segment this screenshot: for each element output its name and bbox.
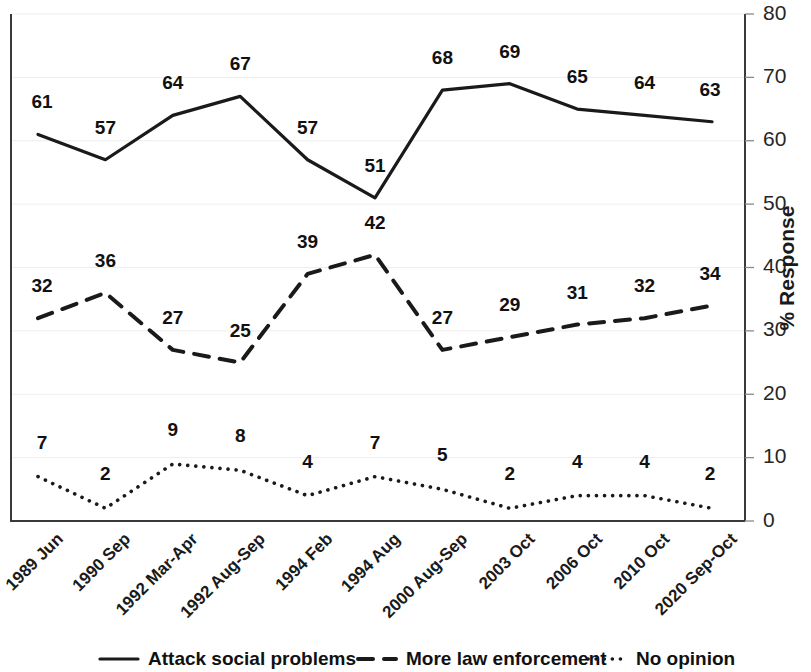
data-label: 4 <box>639 451 650 472</box>
chart-legend: Attack social problemsMore law enforceme… <box>100 648 735 669</box>
data-label: 4 <box>302 451 313 472</box>
data-label: 57 <box>95 117 116 138</box>
y-axis-title: % Response <box>775 206 798 331</box>
data-label: 51 <box>364 155 386 176</box>
data-label: 32 <box>31 275 52 296</box>
data-label: 8 <box>235 425 246 446</box>
chart-container: 01020304050607080 % Response 1989 Jun199… <box>0 0 811 672</box>
data-label: 67 <box>230 53 251 74</box>
data-label: 27 <box>162 307 183 328</box>
data-label: 61 <box>31 91 53 112</box>
data-label: 5 <box>437 444 448 465</box>
data-label: 65 <box>567 66 589 87</box>
data-label: 64 <box>162 72 184 93</box>
data-label: 36 <box>95 250 116 271</box>
data-label: 32 <box>634 275 655 296</box>
data-label: 57 <box>297 117 318 138</box>
y-tick-label: 10 <box>763 444 786 467</box>
data-label: 34 <box>699 263 721 284</box>
data-label: 68 <box>432 47 453 68</box>
data-label: 31 <box>567 282 589 303</box>
data-label: 64 <box>634 72 656 93</box>
data-label: 69 <box>499 41 520 62</box>
y-tick-label: 20 <box>763 381 786 404</box>
data-label: 7 <box>37 432 48 453</box>
legend-label: More law enforcement <box>406 648 607 669</box>
data-label: 2 <box>100 463 111 484</box>
y-tick-label: 0 <box>763 508 775 531</box>
data-label: 27 <box>432 307 453 328</box>
data-label: 2 <box>705 463 716 484</box>
data-label: 42 <box>364 212 385 233</box>
data-label: 2 <box>505 463 516 484</box>
data-label: 9 <box>168 419 179 440</box>
data-label: 25 <box>230 320 252 341</box>
data-label: 29 <box>499 294 520 315</box>
data-label: 7 <box>370 432 381 453</box>
data-label: 63 <box>699 79 720 100</box>
data-label: 4 <box>572 451 583 472</box>
y-tick-label: 70 <box>763 64 786 87</box>
y-tick-label: 60 <box>763 127 786 150</box>
line-chart: 01020304050607080 % Response 1989 Jun199… <box>0 0 811 672</box>
y-tick-label: 80 <box>763 1 786 24</box>
legend-label: Attack social problems <box>148 648 356 669</box>
legend-label: No opinion <box>636 648 735 669</box>
data-label: 39 <box>297 231 318 252</box>
